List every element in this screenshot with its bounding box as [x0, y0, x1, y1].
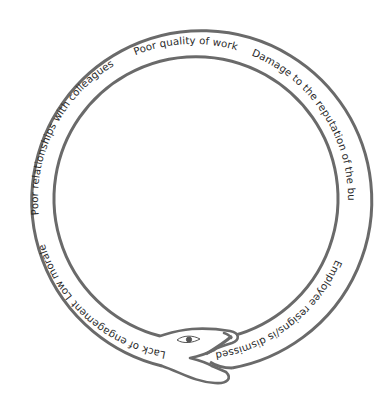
label-low-morale: Low morale — [36, 243, 74, 302]
label-employee-resigns: Employee resigns/is dismissed — [215, 259, 344, 362]
serpent-body-inner-edge — [54, 57, 338, 336]
label-lack-of-engagement: Lack of engagement — [69, 299, 167, 361]
label-damage-to-reputation: Damage to the reputation of the business — [0, 0, 357, 201]
label-poor-relationships: Poor relationships with colleagues — [29, 58, 116, 216]
ouroboros-diagram: Poor quality of work Damage to the reput… — [0, 0, 382, 399]
